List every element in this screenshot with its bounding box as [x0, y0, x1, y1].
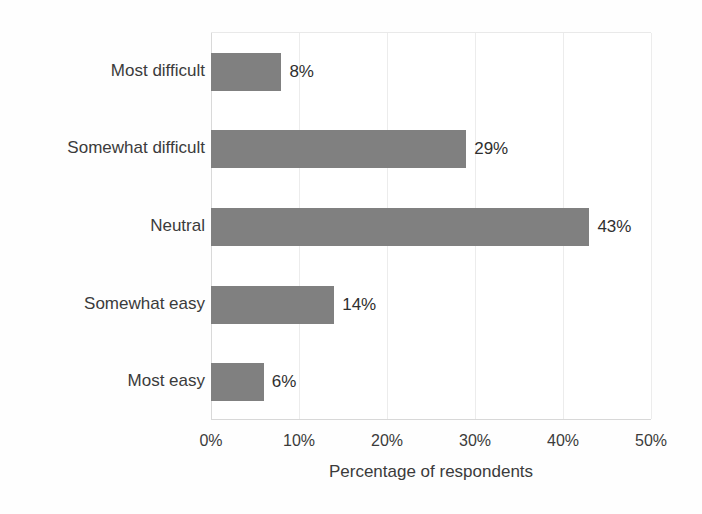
- x-axis-tick-labels: 0%10%20%30%40%50%: [211, 432, 651, 458]
- x-tick-label: 50%: [635, 432, 667, 450]
- bar-value-label: 6%: [272, 372, 297, 392]
- category-label: Somewhat easy: [0, 265, 205, 343]
- plot-area: 8%29%43%14%6%: [211, 32, 651, 420]
- x-tick-label: 10%: [283, 432, 315, 450]
- bar-rows: 8%29%43%14%6%: [211, 33, 651, 419]
- bar-row: 29%: [211, 111, 651, 189]
- bar-chart-figure: 8%29%43%14%6% Most difficultSomewhat dif…: [0, 0, 702, 514]
- bar[interactable]: 14%: [211, 286, 334, 324]
- category-label: Neutral: [0, 187, 205, 265]
- bar-row: 6%: [211, 343, 651, 421]
- category-label: Most easy: [0, 342, 205, 420]
- bar-row: 43%: [211, 188, 651, 266]
- bar[interactable]: 6%: [211, 363, 264, 401]
- bar[interactable]: 43%: [211, 208, 589, 246]
- gridline-50pct: [651, 33, 652, 419]
- x-axis-title: Percentage of respondents: [211, 462, 651, 482]
- bar-value-label: 8%: [289, 62, 314, 82]
- x-tick-label: 40%: [547, 432, 579, 450]
- category-label: Most difficult: [0, 32, 205, 110]
- bar-value-label: 29%: [474, 139, 508, 159]
- x-tick-label: 30%: [459, 432, 491, 450]
- bar-row: 8%: [211, 33, 651, 111]
- bar[interactable]: 29%: [211, 130, 466, 168]
- x-tick-label: 20%: [371, 432, 403, 450]
- bar[interactable]: 8%: [211, 53, 281, 91]
- bar-row: 14%: [211, 266, 651, 344]
- bar-value-label: 43%: [597, 217, 631, 237]
- x-tick-label: 0%: [199, 432, 222, 450]
- category-axis-labels: Most difficultSomewhat difficultNeutralS…: [0, 32, 205, 420]
- category-label: Somewhat difficult: [0, 110, 205, 188]
- bar-value-label: 14%: [342, 295, 376, 315]
